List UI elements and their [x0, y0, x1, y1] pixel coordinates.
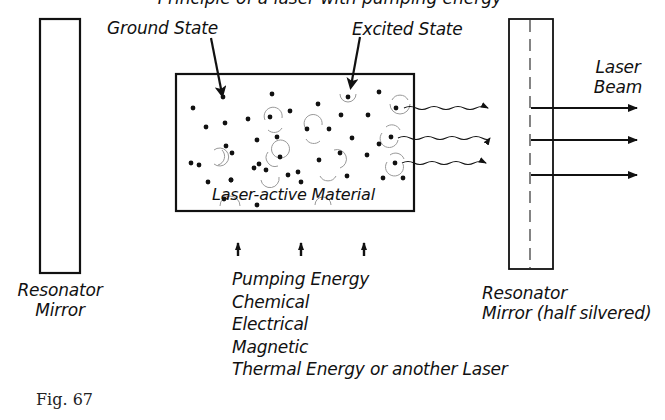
laser-active-material-label: Laser-active Material [212, 185, 375, 205]
pumping-item-electrical: Electrical [232, 313, 508, 336]
pumping-item-magnetic: Magnetic [232, 336, 508, 359]
excited-state-pointer [351, 37, 360, 86]
pumping-item-title: Pumping Energy [232, 268, 508, 291]
left-mirror-label-line1: Resonator [10, 280, 110, 300]
ground-state-label: Ground State [107, 18, 218, 38]
left-mirror-label-line2: Mirror [10, 300, 110, 320]
left-resonator-mirror [40, 19, 80, 273]
left-mirror-label: Resonator Mirror [10, 280, 110, 320]
right-resonator-mirror [509, 19, 553, 269]
laser-beam-arrows [531, 108, 637, 175]
pumping-item-chemical: Chemical [232, 291, 508, 314]
emission-waves [398, 107, 490, 165]
pumping-energy-list: Pumping Energy Chemical Electrical Magne… [232, 268, 508, 381]
laser-beam-label: Laser Beam [588, 57, 648, 97]
laser-beam-label-line1: Laser [588, 57, 648, 77]
ground-state-pointer [211, 38, 222, 94]
pumping-arrows [238, 243, 364, 256]
laser-beam-label-line2: Beam [588, 77, 648, 97]
figure-number: Fig. 67 [36, 390, 93, 409]
excited-state-label: Excited State [352, 19, 463, 39]
pumping-item-thermal: Thermal Energy or another Laser [232, 358, 508, 381]
